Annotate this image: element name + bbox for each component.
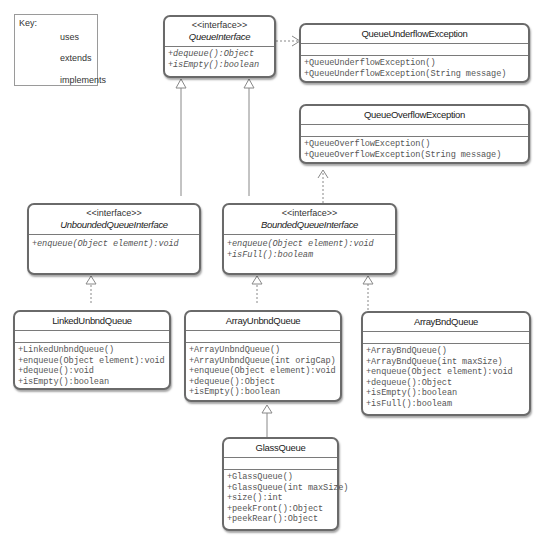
operation: +QueueOverflowException(String message) [304, 150, 525, 161]
operations-list: +QueueOverflowException() +QueueOverflow… [301, 137, 528, 162]
class-name: QueueInterface [167, 31, 272, 43]
class-name: QueueOverflowException [303, 109, 526, 121]
operations-list: +ArrayUnbndQueue() +ArrayUnbndQueue(int … [186, 343, 340, 400]
operation: +enqueue(Object element):void [189, 366, 337, 377]
operation: +QueueUnderflowException(String message) [304, 69, 525, 80]
class-name: ArrayBndQueue [365, 316, 527, 328]
operations-list: +LinkedUnbndQueue() +enqueue(Object elem… [15, 343, 169, 389]
operation: +ArrayBndQueue() [366, 346, 526, 357]
class-name: LinkedUnbndQueue [17, 315, 167, 327]
operation: +dequeue():void [18, 366, 166, 377]
legend-implements-label: implements [60, 75, 106, 85]
operation: +GlassQueue(int maxSize) [227, 483, 334, 494]
operation: +isFull():booleam [227, 250, 392, 261]
class-header: ArrayBndQueue [363, 313, 529, 332]
operation: +peekRear():Object [227, 514, 334, 525]
legend-uses-label: uses [60, 32, 79, 42]
class-name: ArrayUnbndQueue [188, 315, 338, 327]
operation: +peekFront():Object [227, 504, 334, 515]
class-header: <<interface>> BoundedQueueInterface [224, 205, 395, 235]
class-header: <<interface>> QueueInterface [165, 17, 274, 47]
operation: +ArrayUnbndQueue(int origCap) [189, 356, 337, 367]
operation: +LinkedUnbndQueue() [18, 345, 166, 356]
attributes-section [301, 44, 528, 56]
class-header: GlassQueue [224, 439, 337, 458]
operation: +isEmpty():boolean [168, 60, 271, 71]
attributes-section [186, 331, 340, 343]
attributes-section [301, 125, 528, 137]
operations-list: +enqueue(Object element):void +isFull():… [224, 235, 395, 262]
operation: +QueueUnderflowException() [304, 58, 525, 69]
legend-key: Key: uses extends implements [14, 14, 98, 86]
attributes-section [15, 331, 169, 343]
operation: +enqueue(Object element):void [227, 239, 392, 250]
operation: +QueueOverflowException() [304, 139, 525, 150]
class-header: QueueUnderflowException [301, 25, 528, 44]
class-array-unbnd-queue[interactable]: ArrayUnbndQueue +ArrayUnbndQueue() +Arra… [184, 310, 342, 402]
class-linked-unbnd-queue[interactable]: LinkedUnbndQueue +LinkedUnbndQueue() +en… [13, 310, 171, 390]
class-header: QueueOverflowException [301, 106, 528, 125]
operations-list: +ArrayBndQueue() +ArrayBndQueue(int maxS… [363, 344, 529, 411]
stereotype-label: <<interface>> [167, 20, 272, 31]
operation: +isEmpty():boolean [18, 377, 166, 388]
class-queue-interface[interactable]: <<interface>> QueueInterface +dequeue():… [163, 15, 276, 78]
class-queue-underflow-exception[interactable]: QueueUnderflowException +QueueUnderflowE… [299, 23, 530, 83]
attributes-section [224, 458, 337, 470]
legend-title: Key: [19, 18, 37, 28]
class-header: LinkedUnbndQueue [15, 312, 169, 331]
class-glass-queue[interactable]: GlassQueue +GlassQueue() +GlassQueue(int… [222, 437, 339, 531]
class-bounded-queue-interface[interactable]: <<interface>> BoundedQueueInterface +enq… [222, 203, 397, 275]
class-header: <<interface>> UnboundedQueueInterface [29, 205, 199, 235]
operation: +dequeue():Object [189, 377, 337, 388]
operation: +isEmpty():boolean [366, 388, 526, 399]
operation: +isEmpty():boolean [189, 387, 337, 398]
class-name: UnboundedQueueInterface [31, 219, 197, 231]
operation: +enqueue(Object element):void [366, 367, 526, 378]
stereotype-label: <<interface>> [226, 208, 393, 219]
operation: +size():int [227, 493, 334, 504]
class-name: GlassQueue [226, 442, 335, 454]
class-header: ArrayUnbndQueue [186, 312, 340, 331]
class-queue-overflow-exception[interactable]: QueueOverflowException +QueueOverflowExc… [299, 104, 530, 164]
operation: +isFull():booleam [366, 399, 526, 410]
operation: +dequeue():Object [366, 378, 526, 389]
stereotype-label: <<interface>> [31, 208, 197, 219]
class-array-bnd-queue[interactable]: ArrayBndQueue +ArrayBndQueue() +ArrayBnd… [361, 311, 531, 416]
operation: +ArrayBndQueue(int maxSize) [366, 357, 526, 368]
legend-extends-label: extends [60, 53, 92, 63]
operations-list: +QueueUnderflowException() +QueueUnderfl… [301, 56, 528, 81]
operation: +ArrayUnbndQueue() [189, 345, 337, 356]
class-name: QueueUnderflowException [303, 28, 526, 40]
operations-list: +GlassQueue() +GlassQueue(int maxSize) +… [224, 470, 337, 527]
operations-list: +dequeue():Object +isEmpty():boolean [165, 47, 274, 72]
operation: +dequeue():Object [168, 49, 271, 60]
class-unbounded-queue-interface[interactable]: <<interface>> UnboundedQueueInterface +e… [27, 203, 201, 275]
operation: +enqueue(Object element):void [32, 239, 196, 250]
operations-list: +enqueue(Object element):void [29, 235, 199, 252]
operation: +enqueue(Object element):void [18, 356, 166, 367]
attributes-section [363, 332, 529, 344]
class-name: BoundedQueueInterface [226, 219, 393, 231]
operation: +GlassQueue() [227, 472, 334, 483]
